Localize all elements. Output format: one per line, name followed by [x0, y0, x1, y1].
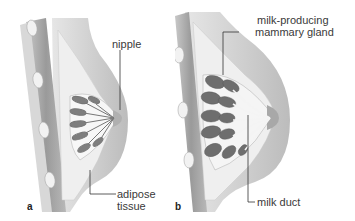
label-nipple: nipple	[112, 38, 141, 50]
panel-letter-b: b	[175, 201, 181, 212]
label-milk-duct: milk duct	[257, 196, 300, 208]
label-adipose-line2: tissue	[117, 200, 146, 212]
panel-letter-a: a	[27, 201, 33, 212]
label-gland-line2: mammary gland	[255, 26, 334, 38]
panel-b: milk-producing mammary gland milk duct b	[175, 0, 355, 221]
label-adipose-line1: adipose	[117, 188, 156, 200]
panel-a: nipple adipose tissue a	[0, 0, 175, 221]
label-gland-line1: milk-producing	[257, 14, 329, 26]
